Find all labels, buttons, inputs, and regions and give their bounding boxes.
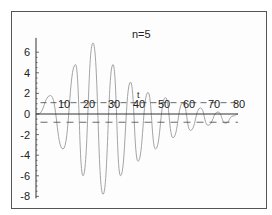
x-tick-label: 20 — [83, 98, 95, 110]
y-tick-label: -8 — [20, 190, 30, 202]
y-tick-label: -6 — [20, 170, 30, 182]
x-tick-label: 70 — [208, 98, 220, 110]
y-tick-label: 4 — [24, 67, 30, 79]
y-tick-label: -2 — [20, 129, 30, 141]
x-tick-label: 60 — [183, 98, 195, 110]
tick-labels: 6420-2-4-6-81020304050607080 — [20, 46, 245, 202]
x-tick-label: 30 — [108, 98, 120, 110]
axes — [36, 38, 238, 199]
chart-title: n=5 — [132, 28, 151, 40]
x-tick-label: 10 — [58, 98, 70, 110]
y-tick-label: 2 — [24, 87, 30, 99]
y-tick-label: 6 — [24, 46, 30, 58]
y-tick-label: -4 — [20, 149, 30, 161]
signal-curve — [38, 43, 238, 194]
y-tick-label: 0 — [24, 108, 30, 120]
chart-canvas: 6420-2-4-6-81020304050607080 n=5 t — [0, 0, 272, 215]
x-tick-label: 80 — [233, 98, 245, 110]
x-tick-label: 50 — [158, 98, 170, 110]
